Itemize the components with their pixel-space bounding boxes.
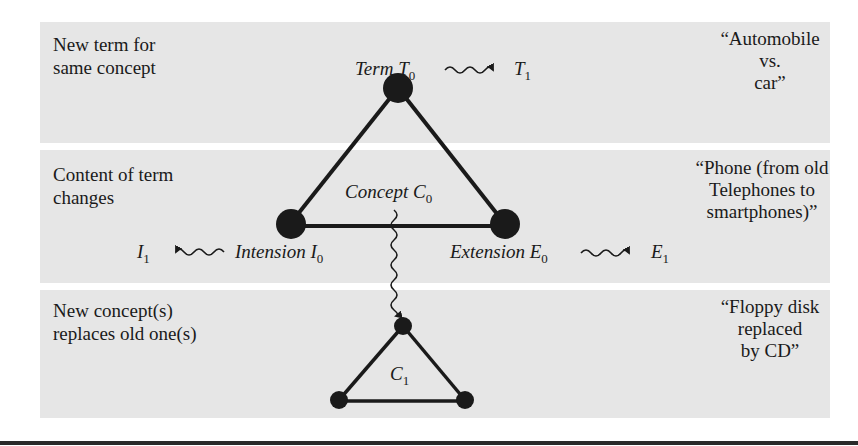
c1-right-node [456, 391, 474, 409]
new-concept-label: C1 [390, 363, 409, 388]
edge-term-extension [398, 88, 505, 224]
term-new-label: T1 [514, 58, 531, 83]
extension-node [490, 209, 520, 239]
intension-drift-arrow-icon [176, 249, 224, 255]
c1-left-node [330, 391, 348, 409]
concept-label: Concept C0 [345, 181, 432, 206]
c1-edge-right [403, 326, 465, 400]
intension-new-label: I1 [136, 241, 150, 266]
c1-top-node [394, 317, 412, 335]
intension-label: Intension I0 [234, 241, 323, 266]
bottom-rule [0, 441, 858, 445]
extension-new-label: E1 [650, 241, 669, 266]
term-drift-arrow-icon [445, 67, 493, 73]
edge-term-intension [290, 88, 398, 224]
extension-label: Extension E0 [449, 241, 548, 266]
extension-drift-arrow-icon [581, 250, 629, 256]
semiotic-triangle-diagram: Term T0 T1 Concept C0 Intension I0 I1 Ex… [0, 0, 858, 446]
intension-node [276, 209, 306, 239]
concept-triangle [276, 73, 520, 239]
